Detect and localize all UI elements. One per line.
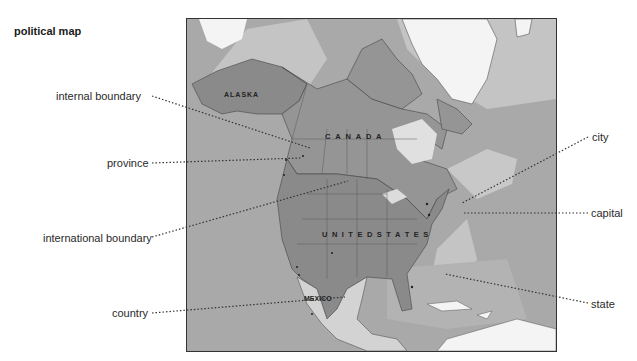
leader-internal-boundary	[152, 96, 310, 148]
leader-state	[445, 274, 588, 303]
leader-province	[152, 158, 301, 163]
leader-country	[152, 297, 345, 313]
leader-lines	[0, 0, 637, 361]
leader-international-boundary	[152, 181, 348, 237]
leader-city	[462, 137, 588, 203]
